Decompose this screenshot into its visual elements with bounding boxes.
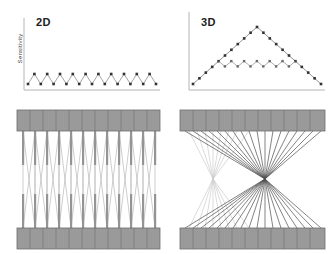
series-line-2d [28,74,156,84]
series-markers-3d-total [192,26,323,86]
chart-2d: Sensitivity 2D [0,0,166,104]
sensitivity-plot-3d [167,0,333,104]
series-line-3d-total [193,27,321,84]
diagram-2d [0,104,166,254]
detector-ring-bottom-3d [180,228,325,249]
sensitivity-plot-2d [0,0,166,104]
panel-title-2d: 2D [36,16,51,28]
lor-lines-3d-dark [185,131,321,228]
lor-lines-2d [23,131,155,228]
series-markers-2d [27,73,158,86]
detector-ring-bottom-2d [17,228,160,249]
chart-3d: 3D [167,0,333,104]
panel-3d: 3D [167,0,333,254]
collimator-diagram-3d [167,104,333,254]
panel-2d: Sensitivity 2D [0,0,166,254]
detector-ring-top-2d [17,110,160,131]
panel-title-3d: 3D [201,16,216,28]
y-axis-label-2d: Sensitivity [16,19,23,79]
detector-ring-top-3d [180,110,325,131]
lor-lines-3d-light [189,131,249,228]
collimator-diagram-2d [0,104,166,254]
figure-root: Sensitivity 2D [0,0,333,254]
diagram-3d [167,104,333,254]
